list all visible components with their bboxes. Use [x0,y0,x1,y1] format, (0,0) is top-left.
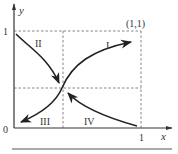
dashed-guides [14,31,141,128]
x-tick-label: 1 [139,132,144,143]
curve-I [62,42,131,88]
phase-diagram: y x 1 0 1 (1,1) II I III IV [0,0,178,154]
y-tick-label: 1 [3,26,8,37]
y-axis-label: y [18,4,24,16]
origin-label: 0 [3,124,8,135]
region-label-III: III [40,116,50,127]
region-label-I: I [106,40,109,51]
region-label-II: II [35,38,42,49]
region-label-IV: IV [84,116,95,127]
x-axis-label: x [160,130,166,142]
curve-IV [68,93,137,126]
corner-point-label: (1,1) [126,18,145,30]
